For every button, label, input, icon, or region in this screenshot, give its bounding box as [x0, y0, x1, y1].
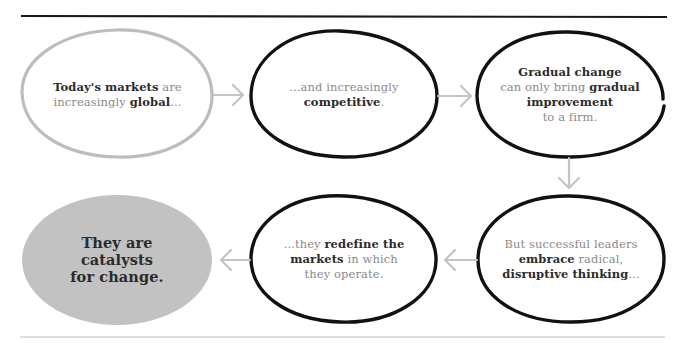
text-line: Today's markets are: [53, 80, 182, 95]
node-text-block: They arecatalystsfor change.: [70, 234, 163, 285]
arrow-right-icon: [213, 85, 243, 105]
node-text-block: Today's markets areincreasingly global..…: [53, 80, 182, 110]
arrow-left-icon: [221, 250, 250, 270]
text-line: to a firm.: [500, 110, 639, 125]
text-line: Gradual change: [500, 65, 639, 80]
arrow-down-icon: [559, 158, 579, 188]
node-text-competitive: ...and increasinglycompetitive.: [258, 40, 430, 150]
node-text-gradual-change: Gradual changecan only bring gradualimpr…: [484, 40, 656, 150]
body-text: radical,: [575, 252, 624, 266]
node-text-disruptive-thinking: But successful leadersembrace radical,di…: [485, 204, 657, 314]
text-line: ...they redefine the: [284, 237, 405, 252]
text-line: can only bring gradual: [500, 80, 639, 95]
top-rule: [21, 16, 667, 17]
node-text-block: But successful leadersembrace radical,di…: [502, 237, 639, 282]
body-text: are: [159, 80, 182, 94]
body-text: .: [380, 95, 384, 109]
node-text-catalysts: They arecatalystsfor change.: [28, 200, 206, 318]
text-line: disruptive thinking...: [502, 267, 639, 282]
emphasis-text: markets: [290, 252, 343, 266]
body-text: they operate.: [305, 267, 384, 281]
text-line: improvement: [500, 95, 639, 110]
arrow-right-icon: [438, 86, 471, 106]
emphasis-text: competitive: [304, 95, 381, 109]
emphasis-text: redefine the: [324, 237, 404, 251]
text-line: embrace radical,: [502, 252, 639, 267]
emphasis-text: catalysts: [81, 251, 153, 268]
node-text-block: ...and increasinglycompetitive.: [289, 80, 398, 110]
emphasis-text: improvement: [527, 95, 614, 109]
body-text: increasingly: [54, 95, 130, 109]
emphasis-text: They are: [81, 234, 152, 251]
text-line: But successful leaders: [502, 237, 639, 252]
node-text-block: ...they redefine themarkets in whichthey…: [284, 237, 405, 282]
emphasis-text: global: [130, 95, 171, 109]
emphasis-text: embrace: [519, 252, 575, 266]
emphasis-text: Gradual change: [518, 65, 622, 79]
body-text: ...: [170, 95, 181, 109]
text-line: catalysts: [70, 251, 163, 268]
text-line: they operate.: [284, 267, 405, 282]
body-text: ...: [628, 267, 639, 281]
emphasis-text: Today's markets: [53, 80, 158, 94]
node-text-block: Gradual changecan only bring gradualimpr…: [500, 65, 639, 125]
text-line: increasingly global...: [53, 95, 182, 110]
emphasis-text: disruptive thinking: [502, 267, 628, 281]
text-line: They are: [70, 234, 163, 251]
emphasis-text: for change.: [70, 268, 163, 285]
body-text: ...and increasingly: [289, 80, 398, 94]
text-line: ...and increasingly: [289, 80, 398, 95]
body-text: in which: [344, 252, 398, 266]
node-text-redefine-markets: ...they redefine themarkets in whichthey…: [258, 204, 430, 314]
body-text: ...they: [284, 237, 325, 251]
node-text-markets-global: Today's markets areincreasingly global..…: [30, 40, 205, 150]
text-line: markets in which: [284, 252, 405, 267]
arrow-left-icon: [445, 250, 477, 270]
body-text: But successful leaders: [504, 237, 637, 251]
emphasis-text: gradual: [589, 80, 639, 94]
body-text: to a firm.: [543, 110, 598, 124]
body-text: can only bring: [500, 80, 589, 94]
text-line: competitive.: [289, 95, 398, 110]
text-line: for change.: [70, 268, 163, 285]
